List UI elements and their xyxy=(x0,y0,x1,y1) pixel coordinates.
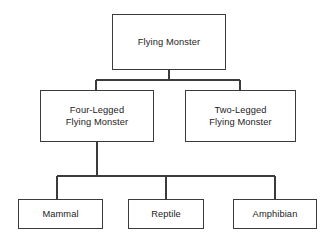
node-flying-monster[interactable]: Flying Monster xyxy=(112,14,226,70)
node-amphibian[interactable]: Amphibian xyxy=(233,199,317,229)
node-label-flying-monster: Flying Monster xyxy=(135,36,203,48)
node-label-four-legged-flying-monster: Four-Legged Flying Monster xyxy=(63,104,131,128)
node-four-legged-flying-monster[interactable]: Four-Legged Flying Monster xyxy=(40,90,154,142)
node-label-reptile: Reptile xyxy=(148,208,184,220)
node-reptile[interactable]: Reptile xyxy=(128,199,204,229)
node-two-legged-flying-monster[interactable]: Two-Legged Flying Monster xyxy=(185,90,296,142)
node-label-amphibian: Amphibian xyxy=(250,208,301,220)
node-label-mammal: Mammal xyxy=(39,208,81,220)
node-label-two-legged-flying-monster: Two-Legged Flying Monster xyxy=(206,104,274,128)
hierarchy-diagram: Flying Monster Four-Legged Flying Monste… xyxy=(0,0,326,242)
node-mammal[interactable]: Mammal xyxy=(18,199,103,229)
